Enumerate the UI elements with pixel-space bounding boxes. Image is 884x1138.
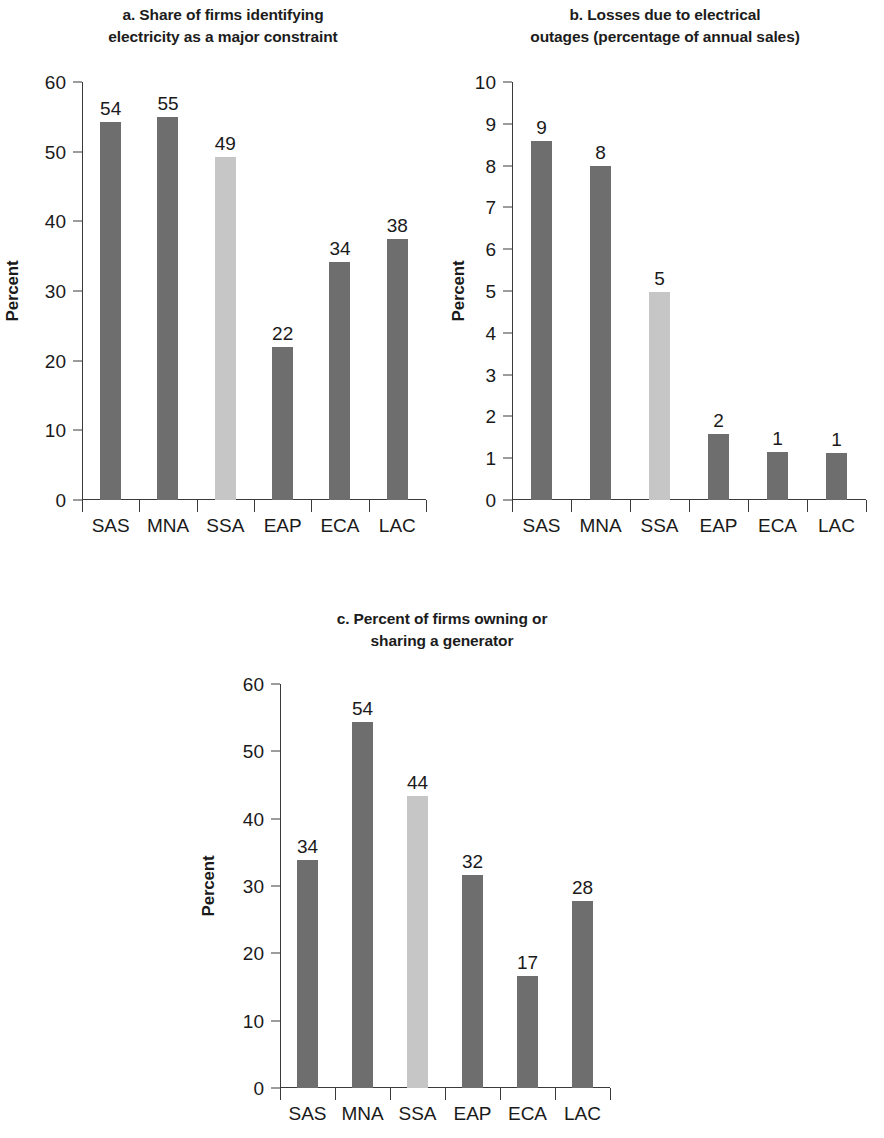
y-axis-tick: 10 <box>243 1011 280 1030</box>
bar-eca[interactable]: 17 <box>517 976 538 1088</box>
bar-slot: 49 <box>197 82 254 500</box>
bar-value-label: 49 <box>215 134 236 153</box>
bar-lac[interactable]: 38 <box>387 239 408 500</box>
panel-c-y-axis-label: Percent <box>196 684 222 1088</box>
bar-value-label: 55 <box>157 94 178 113</box>
y-axis-tick-label: 0 <box>485 491 503 510</box>
bar-slot: 44 <box>390 684 445 1088</box>
x-axis-label-lac: LAC <box>555 1104 610 1123</box>
x-axis-label-sas: SAS <box>512 516 571 535</box>
x-axis-label-lac: LAC <box>807 516 866 535</box>
bar-eca[interactable]: 1 <box>767 452 788 500</box>
x-axis-tick-mark <box>512 500 513 512</box>
y-axis-tick-label: 10 <box>475 73 503 92</box>
x-axis-tick-mark <box>197 500 198 512</box>
x-axis-label-eca: ECA <box>748 516 807 535</box>
panel-a-x-labels: SASMNASSAEAPECALAC <box>82 516 426 535</box>
chart-panel-c: c. Percent of firms owning or sharing a … <box>196 608 688 1088</box>
y-axis-tick: 60 <box>243 675 280 694</box>
y-axis-tick-label: 40 <box>243 809 271 828</box>
bar-slot: 54 <box>335 684 390 1088</box>
x-axis-tick-mark <box>807 500 808 512</box>
y-axis-tick-label: 8 <box>485 156 503 175</box>
bar-ssa[interactable]: 44 <box>407 796 428 1088</box>
bar-value-label: 22 <box>272 324 293 343</box>
bar-slot: 9 <box>512 82 571 500</box>
panel-c-plot: Percent 0102030405060 345444321728 SASMN… <box>196 684 688 1088</box>
y-axis-tick-label: 7 <box>485 198 503 217</box>
y-axis-tick: 20 <box>45 351 82 370</box>
x-axis-tick-mark <box>369 500 370 512</box>
bar-value-label: 54 <box>352 699 373 718</box>
bar-value-label: 8 <box>595 143 606 162</box>
x-axis-label-ssa: SSA <box>390 1104 445 1123</box>
x-axis-tick-mark <box>311 500 312 512</box>
y-axis-tick-label: 50 <box>243 742 271 761</box>
y-axis-tick: 40 <box>45 212 82 231</box>
bar-slot: 1 <box>807 82 866 500</box>
y-axis-tick: 0 <box>55 491 82 510</box>
bar-value-label: 17 <box>517 953 538 972</box>
y-axis-tick: 6 <box>485 240 512 259</box>
x-axis-tick-mark <box>82 500 83 512</box>
x-axis-label-eca: ECA <box>311 516 368 535</box>
x-axis-label-mna: MNA <box>571 516 630 535</box>
x-axis-label-eap: EAP <box>445 1104 500 1123</box>
y-axis-tick-label: 20 <box>243 944 271 963</box>
x-axis-label-eca: ECA <box>500 1104 555 1123</box>
y-axis-tick-mark <box>73 151 82 152</box>
x-axis-label-eap: EAP <box>254 516 311 535</box>
bar-value-label: 1 <box>772 429 783 448</box>
x-axis-label-mna: MNA <box>139 516 196 535</box>
x-axis-tick-mark <box>426 500 427 512</box>
y-axis-tick-mark <box>271 1088 280 1089</box>
y-axis-tick: 9 <box>485 114 512 133</box>
y-axis-tick-mark <box>73 82 82 83</box>
bar-slot: 34 <box>311 82 368 500</box>
y-axis-tick: 40 <box>243 809 280 828</box>
bar-eca[interactable]: 34 <box>329 262 350 500</box>
bar-sas[interactable]: 54 <box>100 122 121 500</box>
x-axis-tick-mark <box>335 1088 336 1100</box>
x-axis-label-sas: SAS <box>82 516 139 535</box>
bar-sas[interactable]: 34 <box>297 860 318 1088</box>
y-axis-tick-mark <box>503 123 512 124</box>
bar-slot: 55 <box>139 82 196 500</box>
x-axis-tick-mark <box>866 500 867 512</box>
y-axis-tick: 30 <box>243 877 280 896</box>
bar-slot: 38 <box>369 82 426 500</box>
bar-ssa[interactable]: 5 <box>649 292 670 500</box>
y-axis-tick-label: 30 <box>243 877 271 896</box>
x-axis-tick-mark <box>555 1088 556 1100</box>
y-axis-tick-mark <box>73 500 82 501</box>
bar-lac[interactable]: 1 <box>826 453 847 500</box>
y-axis-tick-label: 0 <box>253 1079 271 1098</box>
panel-c-x-ticks <box>280 1088 610 1100</box>
bar-eap[interactable]: 2 <box>708 434 729 500</box>
y-axis-tick: 3 <box>485 365 512 384</box>
x-axis-tick-mark <box>500 1088 501 1100</box>
panel-c-axis-area: 0102030405060 345444321728 SASMNASSAEAPE… <box>280 684 610 1088</box>
y-axis-tick-mark <box>271 1020 280 1021</box>
y-axis-tick-mark <box>503 291 512 292</box>
bar-eap[interactable]: 22 <box>272 347 293 500</box>
bar-lac[interactable]: 28 <box>572 901 593 1088</box>
y-axis-tick-mark <box>503 500 512 501</box>
y-axis-tick-mark <box>73 221 82 222</box>
panel-a-x-ticks <box>82 500 426 512</box>
y-axis-tick: 10 <box>475 73 512 92</box>
x-axis-tick-mark <box>630 500 631 512</box>
bar-slot: 34 <box>280 684 335 1088</box>
bar-ssa[interactable]: 49 <box>215 157 236 500</box>
bar-eap[interactable]: 32 <box>462 875 483 1088</box>
y-axis-tick-label: 3 <box>485 365 503 384</box>
y-axis-tick-label: 60 <box>243 675 271 694</box>
y-axis-tick-label: 2 <box>485 407 503 426</box>
panel-a-bars: 545549223438 <box>82 82 426 500</box>
bar-mna[interactable]: 8 <box>590 166 611 500</box>
y-axis-tick: 5 <box>485 282 512 301</box>
x-axis-tick-mark <box>390 1088 391 1100</box>
bar-mna[interactable]: 55 <box>157 117 178 500</box>
bar-mna[interactable]: 54 <box>352 722 373 1088</box>
bar-sas[interactable]: 9 <box>531 141 552 500</box>
